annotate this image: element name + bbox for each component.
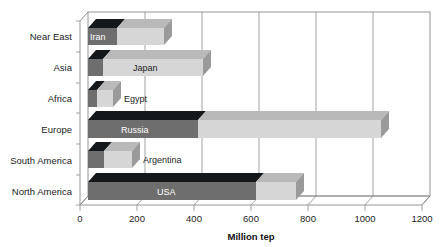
bar-group-europe: Russia xyxy=(88,111,389,138)
y-label-africa: Africa xyxy=(48,93,73,104)
y-label-near-east: Near East xyxy=(30,31,73,42)
y-label-south-america: South America xyxy=(10,155,72,166)
x-axis-title: Million tep xyxy=(228,231,275,242)
bar-face-japan xyxy=(88,59,103,76)
y-label-europe: Europe xyxy=(41,124,72,135)
bar-face-south-america-rest xyxy=(104,151,132,168)
bar-label-japan: Japan xyxy=(133,63,158,73)
bar-label-argentina: Argentina xyxy=(143,155,182,165)
bar-top-near-east-rest xyxy=(117,19,172,28)
x-label-1200: 1200 xyxy=(411,213,432,224)
bar-top-asia-rest xyxy=(103,50,211,59)
bar-face-argentina xyxy=(88,151,104,168)
bar-label-usa: USA xyxy=(157,187,176,197)
bar-face-europe-rest xyxy=(198,120,381,138)
chart-container: Iran Japan Egypt Russia xyxy=(0,0,445,247)
x-label-400: 400 xyxy=(186,213,202,224)
bar-chart-svg: Iran Japan Egypt Russia xyxy=(0,0,445,247)
bar-top-north-america-rest xyxy=(256,173,304,182)
y-label-asia: Asia xyxy=(54,62,73,73)
bar-group-north-america: USA xyxy=(88,173,304,200)
bar-label-egypt: Egypt xyxy=(124,94,148,104)
bar-label-iran: Iran xyxy=(90,32,106,42)
x-label-200: 200 xyxy=(129,213,145,224)
x-label-1000: 1000 xyxy=(354,213,375,224)
bar-group-near-east: Iran xyxy=(88,19,172,45)
x-label-800: 800 xyxy=(300,213,316,224)
bar-face-north-america-rest xyxy=(256,182,296,200)
bar-face-egypt xyxy=(88,90,97,107)
bar-top-russia xyxy=(88,111,206,120)
x-label-0: 0 xyxy=(77,213,82,224)
bar-group-asia: Japan xyxy=(88,50,211,76)
bar-top-usa xyxy=(88,173,264,182)
y-label-north-america: North America xyxy=(12,186,73,197)
bar-face-africa-rest xyxy=(97,90,113,107)
bar-top-europe-rest xyxy=(198,111,389,120)
bar-label-russia: Russia xyxy=(121,125,149,135)
bar-face-near-east-rest xyxy=(117,28,164,45)
x-label-600: 600 xyxy=(243,213,259,224)
